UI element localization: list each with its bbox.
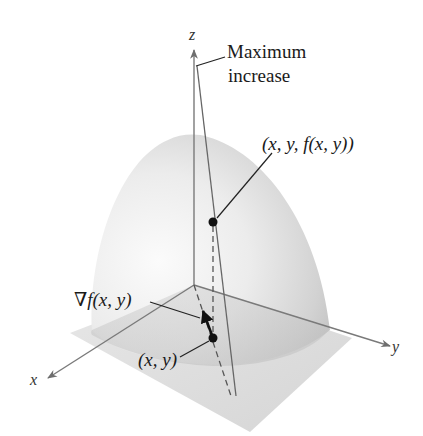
base-point-label: (x, y) xyxy=(138,350,177,369)
gradient-diagram: z x y Maximum increase (x, y, f(x, y)) ∇… xyxy=(0,0,423,436)
diagram-canvas xyxy=(0,0,423,436)
max-increase-label-line2: increase xyxy=(228,66,290,85)
max-increase-label-line1: Maximum xyxy=(227,42,306,61)
surface-point-label: (x, y, f(x, y)) xyxy=(262,134,354,153)
surface-point xyxy=(209,218,218,227)
base-point xyxy=(209,334,218,343)
y-axis-label: y xyxy=(392,339,399,355)
gradient-label: ∇f(x, y) xyxy=(74,290,132,309)
z-axis-label: z xyxy=(189,27,195,43)
x-axis-label: x xyxy=(30,372,37,388)
leader-max-increase xyxy=(196,57,225,66)
